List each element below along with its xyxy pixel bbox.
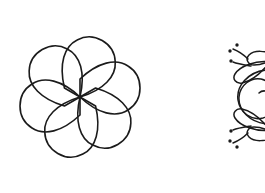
ornament-dot: [235, 43, 238, 46]
ornament-accent-stroke: [233, 133, 248, 143]
ornament-figure: [0, 0, 265, 193]
ornament-spiral-upper: [238, 70, 265, 119]
ornament-dot: [229, 129, 232, 132]
ornament-dot: [229, 59, 232, 62]
ornament-dot: [228, 139, 231, 142]
ornament-accent-stroke: [233, 49, 248, 59]
ornament-group: [228, 43, 265, 148]
ornament-dot: [228, 49, 231, 52]
image-canvas: [0, 0, 265, 193]
ornament-dot: [235, 145, 238, 148]
